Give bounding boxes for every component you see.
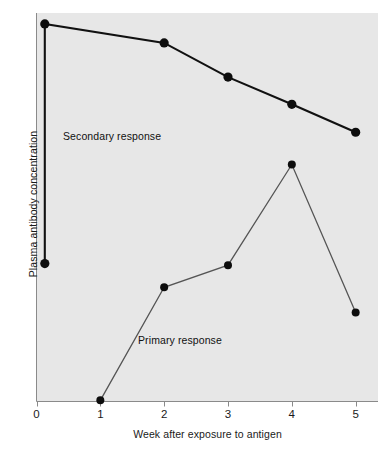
x-axis-tick-label-4: 4 xyxy=(280,408,304,420)
data-point xyxy=(287,100,296,109)
chart-canvas xyxy=(0,0,386,455)
data-point xyxy=(351,128,360,137)
x-axis-tick-label-2: 2 xyxy=(152,408,176,420)
x-axis-tick-label-5: 5 xyxy=(344,408,368,420)
x-axis-title: Week after exposure to antigen xyxy=(37,428,378,440)
data-point xyxy=(160,38,169,47)
y-axis-title: Plasma antibody concentration xyxy=(27,79,39,329)
x-axis-ticks xyxy=(38,402,357,407)
data-point xyxy=(96,396,104,404)
figure-caption-strip xyxy=(0,443,386,455)
series-primary-response xyxy=(96,161,359,405)
x-axis-tick-label-0: 0 xyxy=(25,408,49,420)
data-point xyxy=(288,161,296,169)
x-axis-tick-label-1: 1 xyxy=(88,408,112,420)
data-point xyxy=(223,73,232,82)
series-secondary-response xyxy=(40,19,360,268)
series-line xyxy=(45,24,356,264)
data-point xyxy=(40,19,49,28)
data-point xyxy=(40,259,49,268)
figure-root: 012345 Plasma antibody concentration Wee… xyxy=(0,0,386,455)
data-point xyxy=(352,309,360,317)
primary-response-label: Primary response xyxy=(138,334,222,346)
x-axis-tick-label-3: 3 xyxy=(216,408,240,420)
secondary-response-label: Secondary response xyxy=(63,130,161,142)
series-line xyxy=(100,165,355,401)
figure-caption-text xyxy=(14,443,19,451)
data-series-layer xyxy=(40,19,360,404)
data-point xyxy=(160,283,168,291)
data-point xyxy=(224,261,232,269)
